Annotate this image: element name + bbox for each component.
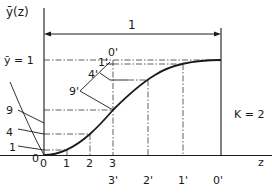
horizontal-guides — [44, 60, 221, 150]
dimension-arrow — [44, 32, 221, 37]
dimension-label: 1 — [128, 18, 136, 32]
arrow-right-icon — [214, 32, 221, 37]
left-label-0: 0 — [32, 152, 39, 165]
x-tick-primed-0: 0' — [213, 174, 223, 187]
x-tick-primed-2: 2' — [143, 174, 153, 187]
x-tick-3: 3 — [109, 157, 116, 170]
x-tick-2: 2 — [86, 157, 93, 170]
x-tick-primed-1: 1' — [178, 174, 188, 187]
y-axis-label: ȳ(z) — [6, 5, 29, 19]
left-label-1: 1 — [9, 141, 16, 154]
diagram-figure: ȳ(z) z ȳ = 1 1 K = 2 0 1 2 3 3' 2' 1' 0'… — [0, 0, 272, 196]
arrow-left-icon — [44, 32, 51, 37]
left-label-9: 9 — [6, 104, 13, 117]
construction-label-9p: 9' — [69, 85, 79, 98]
construction-label-4p: 4' — [88, 68, 98, 81]
construction-label-0p: 0' — [108, 46, 118, 59]
x-axis-label: z — [258, 156, 264, 169]
y-level-label: ȳ = 1 — [4, 54, 34, 67]
x-tick-0: 0 — [40, 157, 47, 170]
x-tick-1: 1 — [63, 157, 70, 170]
x-tick-primed-3: 3' — [108, 174, 118, 187]
construction-label-1p: 1' — [98, 56, 108, 69]
left-label-4: 4 — [6, 126, 13, 139]
parameter-label: K = 2 — [234, 108, 264, 121]
response-curve — [44, 60, 221, 155]
vertical-guides — [67, 60, 183, 155]
